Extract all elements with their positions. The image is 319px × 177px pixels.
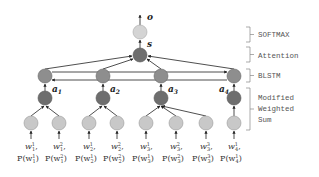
svg-text:w21,: w21, bbox=[53, 141, 66, 152]
svg-text:P(w12): P(w12) bbox=[75, 153, 97, 164]
svg-text:P(w13): P(w13) bbox=[132, 153, 154, 164]
input-to-ws-edges bbox=[31, 106, 234, 116]
svg-text:P(w14): P(w14) bbox=[220, 153, 242, 164]
softmax-node bbox=[133, 25, 147, 39]
svg-text:P(w21): P(w21) bbox=[45, 153, 67, 164]
svg-text:P(w11): P(w11) bbox=[17, 153, 39, 164]
edge-blstm3-attn bbox=[147, 59, 161, 69]
svg-text:w14,: w14, bbox=[228, 141, 241, 152]
svg-text:w11,: w11, bbox=[25, 141, 38, 152]
svg-text:P(w23): P(w23) bbox=[162, 153, 184, 164]
blstm-nodes bbox=[38, 69, 241, 83]
svg-text:w13,: w13, bbox=[140, 141, 153, 152]
layer-label-ws-1: Modified bbox=[258, 94, 294, 102]
svg-text:w12,: w12, bbox=[83, 141, 96, 152]
svg-text:w33,: w33, bbox=[200, 141, 213, 152]
svg-text:P(w33): P(w33) bbox=[192, 153, 214, 164]
ws-to-blstm-arrows bbox=[45, 84, 234, 91]
svg-text:w23,: w23, bbox=[170, 141, 183, 152]
layer-label-ws-2: Weighted bbox=[258, 105, 294, 113]
state-label: s bbox=[147, 39, 152, 49]
edge-blstm1-attn bbox=[45, 56, 132, 69]
a4-label: a4 bbox=[219, 84, 229, 95]
a1-label: a1 bbox=[52, 84, 62, 95]
a3-label: a3 bbox=[168, 84, 178, 95]
input-nodes bbox=[24, 116, 241, 130]
svg-text:P(w22): P(w22) bbox=[103, 153, 125, 164]
layer-label-attention: Attention bbox=[258, 52, 299, 60]
layer-label-softmax: SOFTMAX bbox=[258, 31, 290, 39]
edge-blstm4-attn bbox=[148, 56, 234, 69]
layer-label-blstm: BLSTM bbox=[258, 72, 281, 80]
output-label: o bbox=[147, 12, 153, 22]
layer-label-ws-3: Sum bbox=[258, 116, 272, 124]
input-labels: w11, P(w11) w21, P(w21) w12, P(w12) w22,… bbox=[17, 141, 242, 164]
layer-brackets bbox=[246, 27, 254, 130]
attention-node bbox=[133, 48, 147, 62]
edge-blstm2-attn bbox=[103, 59, 133, 69]
diagram-canvas: o s a1 a2 a3 a4 bbox=[0, 0, 319, 177]
weighted-sum-nodes bbox=[38, 91, 241, 105]
svg-text:w22,: w22, bbox=[111, 141, 124, 152]
a2-label: a2 bbox=[110, 84, 120, 95]
input-arrows bbox=[31, 131, 234, 139]
